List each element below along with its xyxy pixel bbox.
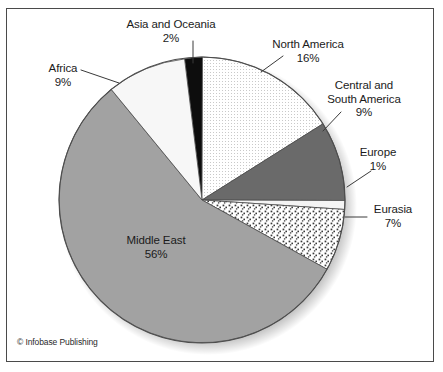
slice-label-asia-pct: 2% xyxy=(96,32,246,46)
pie-chart xyxy=(0,0,443,372)
slice-label-africa: Africa 9% xyxy=(26,62,100,89)
copyright-notice: © Infobase Publishing xyxy=(17,337,98,347)
slice-label-africa-pct: 9% xyxy=(26,76,100,90)
slice-label-europe-name: Europe xyxy=(330,146,426,160)
slice-label-africa-name: Africa xyxy=(26,62,100,76)
slice-label-north-america-name: North America xyxy=(246,38,370,52)
slice-label-north-america-pct: 16% xyxy=(246,52,370,66)
slice-label-europe: Europe 1% xyxy=(330,146,426,173)
slice-label-central-south-name-line1: Central and xyxy=(300,79,428,93)
slice-label-central-south-pct: 9% xyxy=(300,106,428,120)
slice-label-asia-name: Asia and Oceania xyxy=(96,18,246,32)
slice-label-central-south-name-line2: South America xyxy=(300,93,428,107)
slice-label-eurasia-name: Eurasia xyxy=(352,203,434,217)
slice-label-middle-east-pct: 56% xyxy=(106,248,206,262)
slice-label-eurasia-pct: 7% xyxy=(352,217,434,231)
slice-label-middle-east-name: Middle East xyxy=(106,234,206,248)
slice-label-asia-and-oceania: Asia and Oceania 2% xyxy=(96,18,246,45)
slice-label-eurasia: Eurasia 7% xyxy=(352,203,434,230)
slice-label-central-and-south-america: Central and South America 9% xyxy=(300,79,428,120)
figure-page: Asia and Oceania 2% North America 16% Ce… xyxy=(0,0,443,372)
slice-label-middle-east: Middle East 56% xyxy=(106,234,206,261)
slice-label-europe-pct: 1% xyxy=(330,160,426,174)
slice-label-north-america: North America 16% xyxy=(246,38,370,65)
